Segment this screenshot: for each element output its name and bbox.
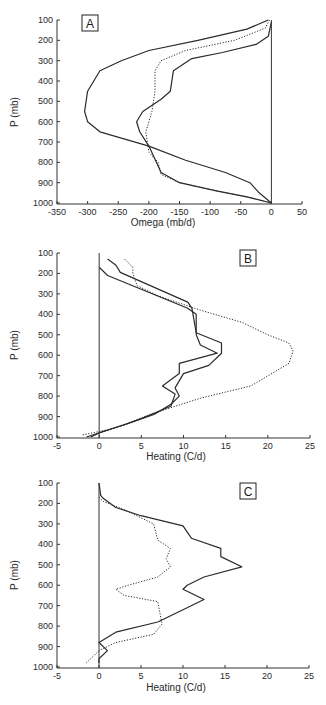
x-tick-label: 25 (305, 441, 315, 451)
series-line-solid (99, 483, 242, 663)
panel-b-label: B (244, 252, 252, 266)
y-tick-label: 200 (38, 498, 53, 508)
panel-b-x-ticks: -50510152025 (53, 435, 315, 451)
x-tick-label: 15 (220, 671, 230, 681)
y-tick-label: 1000 (33, 198, 53, 208)
panel-c-x-ticks: -50510152025 (53, 665, 314, 681)
panel-a-x-label: Omega (mb/d) (131, 217, 195, 228)
y-tick-label: 200 (38, 35, 53, 45)
y-tick-label: 1000 (33, 432, 53, 442)
x-tick-label: 0 (97, 441, 102, 451)
x-tick-label: 0 (269, 207, 274, 217)
y-tick-label: 500 (38, 330, 53, 340)
y-tick-label: 100 (38, 478, 53, 488)
panel-a-y-label: P (mb) (9, 97, 20, 127)
figure: -350-300-250-200-150-100-50050 100200300… (0, 0, 326, 705)
y-tick-label: 600 (38, 580, 53, 590)
x-tick-label: 20 (263, 441, 273, 451)
panel-c-y-label: P (mb) (9, 560, 20, 590)
x-tick-label: -250 (109, 207, 127, 217)
panel-b-y-label: P (mb) (9, 330, 20, 360)
panel-a-y-ticks: 1002003004005006007008009001000 (33, 15, 60, 208)
y-tick-label: 500 (38, 96, 53, 106)
panel-b-y-ticks: 1002003004005006007008009001000 (33, 248, 60, 442)
y-tick-label: 100 (38, 248, 53, 258)
x-tick-label: 10 (178, 671, 188, 681)
series-line-dashed (82, 259, 293, 435)
y-tick-label: 700 (38, 601, 53, 611)
x-tick-label: 0 (96, 671, 101, 681)
panel-c-x-label: Heating (C/d) (146, 682, 205, 693)
y-tick-label: 800 (38, 391, 53, 401)
x-tick-label: -100 (201, 207, 219, 217)
panel-a-x-ticks: -350-300-250-200-150-100-50050 (48, 201, 307, 217)
panel-c-label: C (244, 485, 253, 499)
panel-a: -350-300-250-200-150-100-50050 100200300… (9, 15, 307, 228)
panel-c: -50510152025 100200300400500600700800900… (9, 478, 314, 693)
y-tick-label: 900 (38, 412, 53, 422)
y-tick-label: 400 (38, 76, 53, 86)
x-tick-label: 10 (178, 441, 188, 451)
x-tick-label: -200 (140, 207, 158, 217)
series-line-solid-1 (87, 259, 222, 437)
x-tick-label: -300 (79, 207, 97, 217)
y-tick-label: 800 (38, 157, 53, 167)
x-tick-label: 5 (139, 441, 144, 451)
y-tick-label: 800 (38, 621, 53, 631)
y-tick-label: 900 (38, 178, 53, 188)
y-tick-label: 300 (38, 519, 53, 529)
x-tick-label: -5 (53, 671, 61, 681)
y-tick-label: 100 (38, 15, 53, 25)
panel-a-lines (85, 20, 272, 203)
x-tick-label: 5 (138, 671, 143, 681)
y-tick-label: 300 (38, 289, 53, 299)
y-tick-label: 700 (38, 371, 53, 381)
series-line-solid-2 (91, 267, 218, 437)
x-tick-label: -5 (53, 441, 61, 451)
panel-b: -50510152025 100200300400500600700800900… (9, 248, 315, 462)
y-tick-label: 600 (38, 117, 53, 127)
y-tick-label: 1000 (33, 662, 53, 672)
panel-c-lines (86, 483, 241, 663)
y-tick-label: 900 (38, 642, 53, 652)
x-tick-label: -50 (234, 207, 247, 217)
y-tick-label: 300 (38, 56, 53, 66)
y-tick-label: 400 (38, 309, 53, 319)
panel-a-label: A (86, 17, 94, 31)
y-tick-label: 400 (38, 539, 53, 549)
y-tick-label: 200 (38, 268, 53, 278)
y-tick-label: 600 (38, 350, 53, 360)
y-tick-label: 500 (38, 560, 53, 570)
x-tick-label: -350 (48, 207, 66, 217)
x-tick-label: 15 (221, 441, 231, 451)
y-tick-label: 700 (38, 137, 53, 147)
x-tick-label: 25 (304, 671, 314, 681)
x-tick-label: 20 (262, 671, 272, 681)
panel-b-x-label: Heating (C/d) (146, 451, 205, 462)
x-tick-label: -150 (170, 207, 188, 217)
panel-c-y-ticks: 1002003004005006007008009001000 (33, 478, 60, 672)
x-tick-label: 50 (297, 207, 307, 217)
panel-b-lines (82, 259, 293, 437)
